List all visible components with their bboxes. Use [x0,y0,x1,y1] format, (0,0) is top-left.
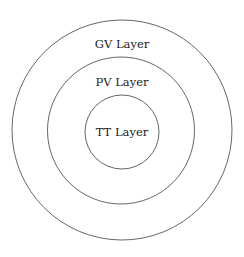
pv-layer-label: PV Layer [96,75,149,89]
tt-layer-label: TT Layer [96,125,149,139]
concentric-layer-diagram: GV Layer PV Layer TT Layer [0,0,244,257]
gv-layer-label: GV Layer [95,37,150,51]
